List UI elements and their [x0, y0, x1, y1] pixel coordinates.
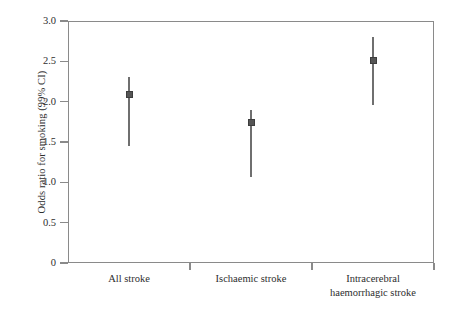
- x-axis-category-label-line: Ischaemic stroke: [190, 272, 312, 286]
- y-axis-tick-label-wrap: 2.0: [4, 95, 56, 108]
- x-axis-category-label-line: All stroke: [68, 272, 190, 286]
- x-axis-category-label-line: Intracerebral: [312, 272, 434, 286]
- x-axis-tick: [433, 263, 434, 270]
- odds-ratio-chart: Odds ratio for smoking (99% CI) 00.51.01…: [0, 0, 451, 309]
- y-axis-tick-label-wrap: 1.5: [4, 135, 56, 148]
- y-axis-tick-label-wrap: 2.5: [4, 54, 56, 67]
- y-axis-tick-label: 2.5: [6, 54, 56, 67]
- x-axis-tick: [189, 263, 190, 270]
- data-point-marker: [248, 119, 255, 126]
- y-axis-tick-label-wrap: 0.5: [4, 216, 56, 229]
- x-axis-category-label: Intracerebralhaemorrhagic stroke: [312, 272, 434, 299]
- data-point-marker: [126, 91, 133, 98]
- y-axis-tick-label: 0: [6, 256, 56, 269]
- confidence-interval-bar: [372, 37, 373, 105]
- y-axis-tick-label-wrap: 3.0: [4, 14, 56, 27]
- y-axis-tick: [60, 262, 68, 263]
- confidence-interval-bar: [128, 77, 129, 146]
- y-axis-tick-label-wrap: 0: [4, 256, 56, 269]
- y-axis-tick-label: 1.0: [6, 175, 56, 188]
- y-axis-tick: [60, 141, 68, 142]
- y-axis-tick: [60, 222, 68, 223]
- x-axis-category-label: Ischaemic stroke: [190, 272, 312, 286]
- x-axis-category-label: All stroke: [68, 272, 190, 286]
- y-axis-tick-label: 1.5: [6, 135, 56, 148]
- y-axis-tick-label: 2.0: [6, 95, 56, 108]
- y-axis-tick: [60, 101, 68, 102]
- y-axis-tick-label: 0.5: [6, 216, 56, 229]
- x-axis-category-label-line: haemorrhagic stroke: [312, 286, 434, 300]
- y-axis-tick: [60, 20, 68, 21]
- data-point-marker: [370, 57, 377, 64]
- y-axis-tick: [60, 61, 68, 62]
- y-axis-tick: [60, 182, 68, 183]
- y-axis-tick-label-wrap: 1.0: [4, 175, 56, 188]
- x-axis-tick: [311, 263, 312, 270]
- y-axis-tick-label: 3.0: [6, 14, 56, 27]
